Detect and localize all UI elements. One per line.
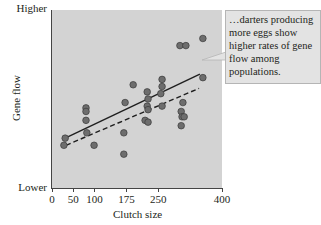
- data-point: [158, 90, 165, 97]
- data-point: [159, 76, 166, 83]
- data-point: [83, 108, 90, 115]
- data-point: [183, 42, 190, 49]
- data-point: [159, 103, 166, 110]
- data-point: [181, 114, 188, 121]
- data-point: [145, 96, 152, 103]
- data-point: [84, 130, 91, 137]
- data-point: [121, 151, 128, 158]
- data-point: [130, 81, 137, 88]
- data-point: [145, 119, 152, 126]
- data-point: [122, 99, 129, 106]
- data-point: [200, 74, 207, 81]
- data-point: [83, 117, 90, 124]
- data-point: [200, 35, 207, 42]
- data-point: [91, 142, 98, 149]
- data-point: [144, 89, 151, 96]
- data-point: [159, 83, 166, 90]
- data-point: [145, 106, 152, 113]
- callout-pointer: [202, 52, 226, 60]
- data-point: [178, 122, 185, 129]
- data-point: [121, 130, 128, 137]
- data-point: [62, 135, 69, 142]
- data-point: [61, 142, 68, 149]
- callout-annotation: …darters producing more eggs show higher…: [225, 10, 321, 84]
- data-point: [180, 99, 187, 106]
